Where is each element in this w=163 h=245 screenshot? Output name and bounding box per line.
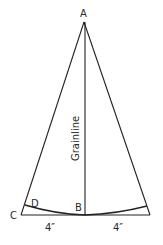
label-a: A [80, 8, 87, 19]
right-side-line [84, 22, 150, 215]
label-d: D [31, 198, 39, 209]
label-c: C [10, 210, 17, 221]
hem-curve [25, 205, 147, 215]
measure-left: 4″ [45, 222, 55, 233]
label-b: B [75, 202, 82, 213]
wedge-diagram: A C D B 4″ 4″ Grainline [0, 0, 163, 245]
grainline-label: Grainline [70, 116, 81, 161]
measure-right: 4″ [113, 222, 123, 233]
